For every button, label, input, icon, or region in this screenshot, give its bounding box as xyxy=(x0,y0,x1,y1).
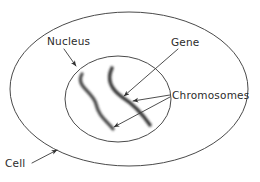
chromosomes-leader-arrow-left xyxy=(114,97,170,127)
diagram-canvas: Nucleus Gene Chromosomes Cell xyxy=(0,0,260,182)
label-gene: Gene xyxy=(171,36,200,48)
chromosome-left xyxy=(80,74,113,129)
nucleus-leader-arrow xyxy=(64,49,76,66)
label-nucleus: Nucleus xyxy=(47,35,90,47)
label-cell: Cell xyxy=(5,157,25,169)
label-chromosomes: Chromosomes xyxy=(172,89,249,101)
chromosome-group xyxy=(80,68,150,129)
cell-leader-arrow xyxy=(32,150,57,163)
chromosome-right xyxy=(110,68,150,125)
cell-diagram: Nucleus Gene Chromosomes Cell xyxy=(0,0,260,182)
